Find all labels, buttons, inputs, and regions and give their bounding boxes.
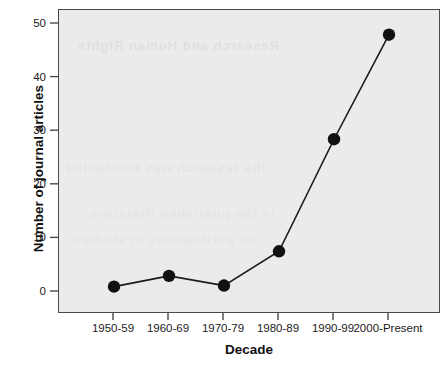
- data-series-line: [114, 35, 389, 287]
- x-tick-label-1980-89: 1980-89: [257, 322, 299, 334]
- y-tick-label-30: 30: [16, 124, 46, 136]
- x-axis-ticks: [113, 313, 388, 320]
- data-point-2000-Present: [383, 29, 395, 41]
- y-tick-label-40: 40: [16, 71, 46, 83]
- data-point-1990-99: [328, 133, 340, 145]
- y-tick-label-50: 50: [16, 17, 46, 29]
- data-point-1970-79: [218, 279, 230, 291]
- y-tick-label-20: 20: [16, 178, 46, 190]
- data-point-1980-89: [273, 245, 285, 257]
- x-axis-title: Decade: [58, 342, 440, 357]
- data-point-1960-69: [163, 270, 175, 282]
- y-axis-title: Number of journal articles: [31, 49, 46, 289]
- x-tick-label-1960-69: 1960-69: [147, 322, 189, 334]
- y-tick-label-0: 0: [16, 285, 46, 297]
- data-point-markers: [108, 29, 395, 293]
- y-tick-label-10: 10: [16, 231, 46, 243]
- x-tick-label-1990-99: 1990-99: [312, 322, 354, 334]
- x-tick-label-1950-59: 1950-59: [92, 322, 134, 334]
- x-tick-label-2000-present: 2000-Present: [353, 322, 422, 334]
- plot-area: Research and Human Rights the research w…: [58, 9, 440, 313]
- data-point-1950-59: [108, 280, 120, 292]
- line-chart-figure: Number of journal articles 0 10 20 30 40…: [0, 0, 448, 366]
- x-tick-label-1970-79: 1970-79: [202, 322, 244, 334]
- y-axis-ticks: [50, 23, 58, 291]
